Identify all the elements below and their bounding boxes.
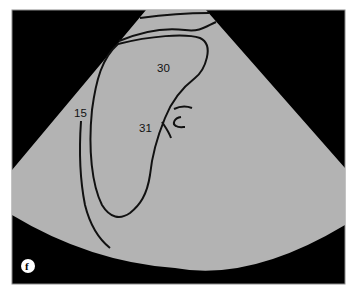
ultrasound-diagram: 30 31 15 f (0, 0, 353, 293)
label-15: 15 (74, 107, 87, 119)
label-30: 30 (157, 62, 170, 74)
panel-label: f (25, 260, 29, 272)
diagram-canvas: 30 31 15 f (0, 0, 353, 293)
label-31: 31 (139, 122, 152, 134)
